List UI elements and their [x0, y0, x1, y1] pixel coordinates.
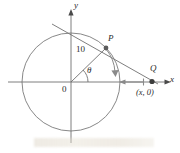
point-p-marker	[104, 46, 109, 51]
rotation-direction-arrowhead-icon	[111, 70, 118, 77]
origin-label: 0	[62, 85, 67, 94]
y-axis-arrowhead-icon	[68, 9, 73, 16]
page-scan-artifact	[34, 138, 154, 147]
y-axis-label: y	[74, 1, 78, 10]
math-diagram: y x 0 P Q (x, 0) 10 θ	[0, 0, 180, 153]
point-q-marker	[149, 79, 154, 84]
q-coordinates-label: (x, 0)	[136, 88, 154, 97]
point-p-label: P	[108, 34, 114, 43]
diagram-canvas	[0, 0, 180, 153]
angle-theta-label: θ	[87, 66, 91, 75]
x-axis-label: x	[170, 75, 174, 84]
point-q-label: Q	[150, 64, 157, 73]
line-pq	[52, 24, 158, 84]
radius-length-label: 10	[76, 45, 85, 54]
